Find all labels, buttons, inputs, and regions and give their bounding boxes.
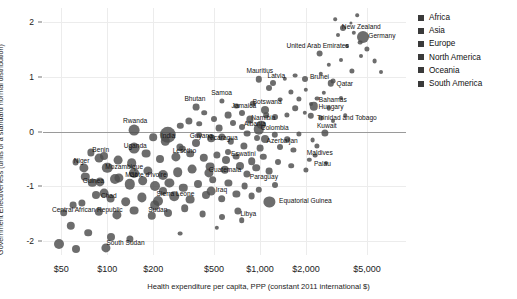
data-point[interactable] xyxy=(199,210,206,217)
data-point[interactable] xyxy=(291,148,296,153)
data-point[interactable] xyxy=(137,193,146,202)
data-point[interactable] xyxy=(243,130,250,137)
data-point[interactable] xyxy=(225,112,232,119)
data-point[interactable] xyxy=(333,17,337,21)
data-point[interactable] xyxy=(173,167,183,177)
data-point[interactable] xyxy=(194,180,202,188)
data-point[interactable] xyxy=(355,13,359,17)
data-point[interactable] xyxy=(185,117,192,124)
data-point[interactable] xyxy=(192,104,199,111)
data-point-label: Sierra Leone xyxy=(157,191,195,198)
plot-area: New ZealandGermanyUnited Arab EmiratesMa… xyxy=(43,8,406,255)
data-point[interactable] xyxy=(321,129,328,136)
data-point[interactable] xyxy=(358,40,363,45)
data-point[interactable] xyxy=(339,58,343,62)
data-point[interactable] xyxy=(359,54,363,58)
data-point[interactable] xyxy=(308,113,314,119)
legend-item-south-america[interactable]: South America xyxy=(418,77,482,90)
data-point[interactable] xyxy=(304,167,309,172)
data-point[interactable] xyxy=(153,196,163,206)
data-point[interactable] xyxy=(67,222,75,230)
data-point[interactable] xyxy=(233,191,240,198)
data-point[interactable] xyxy=(214,226,218,230)
data-point[interactable] xyxy=(254,135,260,141)
data-point[interactable] xyxy=(54,239,64,249)
data-point[interactable] xyxy=(156,155,164,163)
data-point[interactable] xyxy=(213,151,220,158)
legend-item-europe[interactable]: Europe xyxy=(418,37,482,50)
data-point[interactable] xyxy=(350,69,355,74)
data-point[interactable] xyxy=(230,120,236,126)
data-point[interactable] xyxy=(379,70,383,74)
legend-label: South America xyxy=(429,79,482,88)
legend-item-africa[interactable]: Africa xyxy=(418,11,482,24)
data-point[interactable] xyxy=(257,145,264,152)
legend-swatch-icon xyxy=(418,15,424,21)
data-point[interactable] xyxy=(284,112,289,117)
data-point[interactable] xyxy=(239,110,245,116)
data-point[interactable] xyxy=(202,191,210,199)
legend-item-oceania[interactable]: Oceania xyxy=(418,64,482,77)
data-point[interactable] xyxy=(331,79,336,84)
data-point[interactable] xyxy=(110,174,120,184)
y-axis-label: Government Effectiveness (units of a sta… xyxy=(0,0,8,299)
data-point[interactable] xyxy=(150,133,158,141)
data-point[interactable] xyxy=(188,164,197,173)
data-point[interactable] xyxy=(372,59,377,64)
data-point[interactable] xyxy=(241,183,248,190)
data-point[interactable] xyxy=(239,218,245,224)
data-point[interactable] xyxy=(178,231,183,236)
data-point[interactable] xyxy=(201,110,207,116)
legend-item-north-america[interactable]: North America xyxy=(418,51,482,64)
data-point[interactable] xyxy=(72,245,80,253)
data-point[interactable] xyxy=(130,206,139,215)
data-point[interactable] xyxy=(177,123,183,129)
data-point[interactable] xyxy=(277,144,283,150)
legend-item-asia[interactable]: Asia xyxy=(418,24,482,37)
data-point-label: Lesotho xyxy=(173,148,196,155)
data-point[interactable] xyxy=(211,116,217,122)
data-point[interactable] xyxy=(84,229,92,237)
data-point[interactable] xyxy=(219,99,224,104)
data-point[interactable] xyxy=(200,154,208,162)
data-point[interactable] xyxy=(219,214,225,220)
data-point[interactable] xyxy=(181,205,189,213)
data-point[interactable] xyxy=(309,102,313,106)
data-point[interactable] xyxy=(304,88,308,92)
data-point[interactable] xyxy=(297,96,302,101)
data-point[interactable] xyxy=(124,179,134,189)
data-point-label: Brunei xyxy=(310,74,329,81)
data-point[interactable] xyxy=(293,106,299,112)
data-point[interactable] xyxy=(316,50,323,57)
data-point[interactable] xyxy=(289,89,294,94)
data-point[interactable] xyxy=(264,196,275,207)
data-point[interactable] xyxy=(336,33,340,37)
data-point[interactable] xyxy=(289,163,295,169)
data-point[interactable] xyxy=(307,158,311,162)
data-point[interactable] xyxy=(92,191,100,199)
data-point[interactable] xyxy=(222,156,230,164)
data-point[interactable] xyxy=(142,149,151,158)
data-point[interactable] xyxy=(326,62,330,66)
data-point[interactable] xyxy=(302,76,308,82)
data-point[interactable] xyxy=(364,47,369,52)
data-point[interactable] xyxy=(297,131,302,136)
data-point[interactable] xyxy=(240,142,247,149)
data-point[interactable] xyxy=(209,176,217,184)
data-point[interactable] xyxy=(197,121,203,127)
data-point[interactable] xyxy=(79,163,88,172)
data-point[interactable] xyxy=(260,153,266,159)
data-point[interactable] xyxy=(218,195,226,203)
data-point[interactable] xyxy=(129,125,140,136)
data-point[interactable] xyxy=(293,73,298,78)
data-point[interactable] xyxy=(252,164,260,172)
data-point[interactable] xyxy=(248,193,255,200)
data-point[interactable] xyxy=(216,125,223,132)
data-point[interactable] xyxy=(272,182,278,188)
data-point[interactable] xyxy=(310,138,315,143)
data-point[interactable] xyxy=(192,139,200,147)
data-point[interactable] xyxy=(352,30,356,34)
data-point[interactable] xyxy=(275,159,281,165)
data-point[interactable] xyxy=(266,85,272,91)
y-axis-tick-mark xyxy=(38,76,42,77)
